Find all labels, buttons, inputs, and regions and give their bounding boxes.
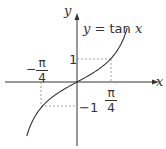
- x-tick-pi-over-4: π4: [103, 87, 119, 114]
- tan-graph: y x y = tan x 1 −1 π4 − π4: [0, 0, 166, 149]
- equation-label: y = tan x: [83, 22, 142, 35]
- y-tick-1: 1: [69, 53, 77, 66]
- x-tick-neg-pi-over-4: π4: [34, 57, 50, 84]
- y-axis-label: y: [64, 4, 71, 17]
- x-axis-label: x: [156, 75, 163, 88]
- y-tick-neg1: −1: [79, 101, 98, 114]
- y-axis-arrow-icon: [75, 13, 80, 20]
